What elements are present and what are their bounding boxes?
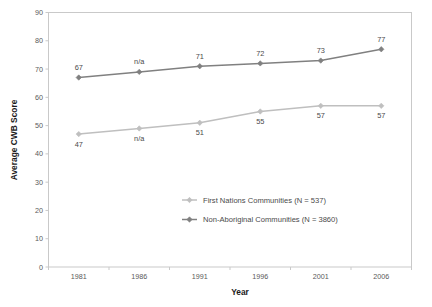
x-axis-title: Year xyxy=(231,287,249,297)
legend-item: First Nations Communities (N = 537) xyxy=(182,196,326,205)
y-tick-label: 80 xyxy=(35,36,43,45)
data-point-label: 73 xyxy=(317,46,325,55)
line-chart: 0102030405060708090 19811986199119962001… xyxy=(0,0,432,307)
data-point-label: 77 xyxy=(377,35,385,44)
x-tick-label: 1996 xyxy=(252,272,268,281)
y-tick-label: 40 xyxy=(35,149,43,158)
y-tick-label: 60 xyxy=(35,93,43,102)
legend-label: Non-Aboriginal Communities (N = 3860) xyxy=(203,215,338,224)
y-tick-label: 90 xyxy=(35,8,43,17)
data-point-label: 57 xyxy=(317,111,325,120)
chart-background xyxy=(0,0,432,307)
data-point-label: 47 xyxy=(75,140,83,149)
y-tick-label: 70 xyxy=(35,65,43,74)
y-tick-label: 30 xyxy=(35,178,43,187)
y-axis-title: Average CWB Score xyxy=(9,99,19,180)
y-tick-label: 10 xyxy=(35,234,43,243)
data-point-label: 72 xyxy=(256,49,264,58)
data-point-label: 55 xyxy=(256,117,264,126)
x-tick-label: 1981 xyxy=(71,272,87,281)
data-point-label: n/a xyxy=(134,57,145,66)
data-point-label: 67 xyxy=(75,63,83,72)
x-tick-label: 1986 xyxy=(131,272,147,281)
x-tick-label: 2001 xyxy=(313,272,329,281)
x-tick-label: 2006 xyxy=(373,272,389,281)
data-point-label: 51 xyxy=(196,128,204,137)
chart-container: 0102030405060708090 19811986199119962001… xyxy=(0,0,432,307)
y-tick-label: 50 xyxy=(35,121,43,130)
data-point-label: n/a xyxy=(134,134,145,143)
data-point-label: 71 xyxy=(196,52,204,61)
data-point-label: 57 xyxy=(377,111,385,120)
legend-label: First Nations Communities (N = 537) xyxy=(203,196,326,205)
legend-item: Non-Aboriginal Communities (N = 3860) xyxy=(182,215,338,224)
y-tick-label: 0 xyxy=(39,263,43,272)
y-tick-label: 20 xyxy=(35,206,43,215)
x-tick-label: 1991 xyxy=(192,272,208,281)
